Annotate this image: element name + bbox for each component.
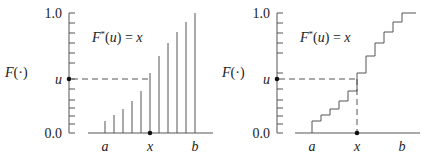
left-x-label-a: a (102, 139, 109, 154)
left-x-label-x: x (146, 139, 154, 154)
left-y-bottom-label: 0.0 (45, 126, 63, 141)
left-x-label-b: b (192, 139, 199, 154)
left-y-axis-label: F(·) (4, 65, 28, 81)
right-y-ticks (277, 13, 283, 133)
right-u-point (275, 77, 280, 82)
right-y-top-label: 1.0 (253, 6, 271, 21)
right-x-label-b: b (399, 139, 406, 154)
right-x-label-x: x (353, 139, 361, 154)
left-y-top-label: 1.0 (45, 6, 63, 21)
right-formula: F*(u) = x (299, 29, 351, 46)
diagram-canvas: 1.0 0.0 u F(·) F*(u) = x a x b 1.0 0.0 u… (0, 0, 430, 155)
right-y-bottom-label: 0.0 (253, 126, 271, 141)
left-formula: F*(u) = x (91, 29, 143, 46)
left-u-point (67, 77, 72, 82)
right-x-point (355, 131, 360, 136)
left-y-ticks (69, 13, 75, 133)
right-u-label: u (263, 72, 270, 87)
right-y-axis-label: F(·) (221, 65, 245, 81)
right-x-label-a: a (309, 139, 316, 154)
left-x-point (148, 131, 153, 136)
left-u-label: u (55, 72, 62, 87)
